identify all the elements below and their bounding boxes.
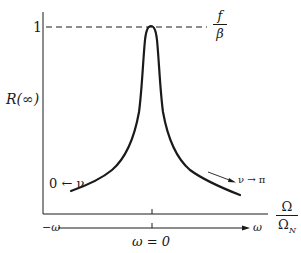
y-axis-label-text: R(∞): [6, 91, 39, 107]
x-axis-denominator-main: Ω: [278, 217, 289, 232]
omega-axis-arrowhead: [242, 226, 250, 231]
omega-negative-label: −ω: [42, 222, 60, 233]
resonance-chart: [0, 0, 301, 253]
reference-fraction-bar: [213, 24, 227, 25]
reference-label: f β: [213, 9, 227, 40]
y-tick-one: 1: [33, 20, 42, 34]
resonance-curve: [71, 26, 240, 195]
right-note-arrow: [208, 172, 232, 181]
omega-zero-label: ω = 0: [132, 235, 170, 248]
x-axis-fraction-bar: [276, 215, 298, 216]
y-axis-label: R(∞): [6, 92, 39, 106]
x-axis-label: Ω ΩN: [276, 200, 298, 235]
reference-denominator: β: [213, 27, 227, 40]
x-axis-denominator-sub: N: [289, 226, 296, 235]
right-note-arrowhead: [228, 178, 236, 183]
x-axis-denominator: ΩN: [276, 218, 298, 235]
reference-numerator: f: [213, 9, 227, 22]
x-axis-numerator: Ω: [276, 200, 298, 213]
omega-positive-label: ω: [253, 222, 262, 233]
left-note: 0 ← ν: [49, 177, 84, 190]
right-note: ν → π: [238, 175, 265, 185]
